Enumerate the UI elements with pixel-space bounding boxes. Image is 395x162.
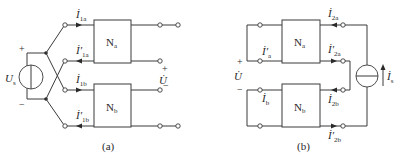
current-arrow-icon <box>331 59 337 64</box>
terminal <box>176 23 180 27</box>
circuit-figure: + − Us İ1a İ′1a İ1b İ′1b Na Nb <box>0 0 395 162</box>
panel-b: İ′a İb + U̇ − Na Nb İ2a İ′2a İ2b İ′2b <box>234 7 394 153</box>
output-plus-sign: + <box>162 63 168 74</box>
current-arrow-icon <box>76 88 82 93</box>
terminal <box>258 59 262 63</box>
current-arrow-icon <box>331 23 337 28</box>
terminal <box>258 124 262 128</box>
panel-a: + − Us İ1a İ′1a İ1b İ′1b Na Nb <box>5 8 180 153</box>
source-direction-arrow-icon <box>381 64 386 70</box>
terminal <box>341 59 345 63</box>
current-label-i1b-prime: İ′1b <box>75 109 90 124</box>
current-label-i2a-prime: İ′2a <box>327 43 342 58</box>
current-label-i1b: İ1b <box>75 73 87 88</box>
source-minus-sign: − <box>19 99 25 110</box>
current-source-label: İs <box>386 70 394 85</box>
voltage-label: U̇ <box>234 70 243 82</box>
terminal <box>341 23 345 27</box>
current-label-i2b: İ2b <box>327 93 339 108</box>
terminal <box>63 88 67 92</box>
terminal <box>341 124 345 128</box>
terminal <box>63 59 67 63</box>
caption-a: (a) <box>102 140 115 153</box>
current-arrow-icon <box>76 23 82 28</box>
circuit-diagram: + − Us İ1a İ′1a İ1b İ′1b Na Nb <box>0 0 395 162</box>
voltage-plus-sign: + <box>237 56 243 67</box>
output-minus-sign: − <box>163 80 169 91</box>
terminal <box>341 88 345 92</box>
voltage-source: + − Us <box>5 43 46 110</box>
current-label-i2b-prime: İ′2b <box>327 129 342 144</box>
current-arrow-icon <box>76 59 82 64</box>
terminal <box>258 23 262 27</box>
terminal <box>158 124 162 128</box>
current-arrow-icon <box>76 124 82 129</box>
voltage-minus-sign: − <box>237 84 243 95</box>
source-plus-sign: + <box>19 43 25 54</box>
current-label-i1a-prime: İ′1a <box>75 44 90 59</box>
terminal <box>63 23 67 27</box>
terminal <box>176 124 180 128</box>
current-label-ia-prime: İ′a <box>261 45 272 60</box>
current-arrow-icon <box>331 124 337 129</box>
caption-b: (b) <box>297 140 310 153</box>
source-label: Us <box>5 72 16 87</box>
current-arrow-icon <box>331 88 337 93</box>
terminal <box>158 88 162 92</box>
terminal <box>63 124 67 128</box>
terminal <box>158 23 162 27</box>
current-label-i1a: İ1a <box>75 8 87 23</box>
current-label-i2a: İ2a <box>327 7 339 22</box>
current-label-ib: İb <box>261 92 270 107</box>
